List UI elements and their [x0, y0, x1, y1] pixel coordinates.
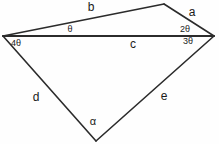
side-label-a: a [189, 6, 196, 18]
side-label-c: c [130, 38, 136, 50]
geometry-figure: bacdeθ2θ3θ4θα [0, 0, 219, 144]
angle-label-theta: θ [67, 25, 72, 34]
edge-d [3, 36, 96, 141]
figure-canvas [0, 0, 219, 144]
edge-b [3, 4, 164, 36]
side-label-e: e [161, 90, 168, 102]
angle-label-three-theta: 3θ [183, 37, 193, 46]
side-label-b: b [88, 1, 95, 13]
angle-label-alpha: α [90, 116, 96, 127]
side-label-d: d [33, 91, 40, 103]
edge-e [96, 36, 214, 141]
angle-label-four-theta: 4θ [11, 39, 21, 48]
angle-label-two-theta: 2θ [180, 25, 190, 34]
